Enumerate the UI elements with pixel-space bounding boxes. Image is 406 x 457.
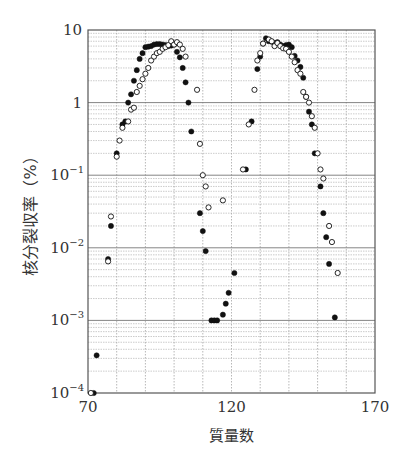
y-tick-label: 10 (63, 21, 82, 39)
filled-data-point (180, 65, 185, 70)
filled-data-point (94, 353, 99, 358)
open-data-point (260, 41, 265, 46)
y-tick-label: 1 (72, 94, 82, 112)
open-data-point (120, 125, 125, 130)
open-data-point (292, 60, 297, 65)
filled-data-point (186, 100, 191, 105)
y-axis-label: 核分裂収率（%） (21, 148, 40, 275)
filled-data-point (232, 270, 237, 275)
filled-data-point (126, 100, 131, 105)
filled-data-point (326, 261, 331, 266)
filled-data-point (197, 211, 202, 216)
open-data-point (200, 173, 205, 178)
open-data-point (126, 119, 131, 124)
open-data-point (117, 138, 122, 143)
open-data-point (252, 87, 257, 92)
fission-yield-chart: 10110−110−210−310−4 70120170 質量数 核分裂収率（%… (0, 0, 406, 457)
open-data-point (329, 239, 334, 244)
open-data-point (203, 184, 208, 189)
filled-data-point (255, 66, 260, 71)
open-data-point (304, 94, 309, 99)
open-data-point (206, 205, 211, 210)
filled-data-point (128, 92, 133, 97)
open-data-point (312, 125, 317, 130)
filled-data-point (215, 318, 220, 323)
open-data-point (220, 198, 225, 203)
grid-lines (88, 30, 375, 393)
filled-data-point (174, 49, 179, 54)
open-data-point (146, 65, 151, 70)
filled-data-point (324, 235, 329, 240)
y-tick-label: 10−2 (50, 237, 84, 257)
open-data-point (255, 58, 260, 63)
open-data-point (134, 89, 139, 94)
open-data-point (88, 390, 93, 395)
filled-data-point (223, 301, 228, 306)
filled-data-point (131, 78, 136, 83)
x-tick-label: 170 (361, 398, 390, 416)
filled-data-point (140, 51, 145, 56)
filled-data-point (321, 211, 326, 216)
x-tick-labels: 70120170 (78, 398, 389, 416)
filled-data-point (220, 312, 225, 317)
open-data-point (306, 100, 311, 105)
filled-data-point (177, 55, 182, 60)
x-tick-label: 70 (78, 398, 97, 416)
filled-data-point (134, 68, 139, 73)
open-data-point (309, 114, 314, 119)
open-data-point (194, 87, 199, 92)
data-points (88, 36, 340, 396)
open-data-point (114, 154, 119, 159)
open-data-point (108, 214, 113, 219)
open-data-point (315, 151, 320, 156)
open-data-point (183, 54, 188, 59)
open-data-point (131, 105, 136, 110)
y-tick-label: 10−1 (50, 164, 84, 184)
open-data-point (335, 270, 340, 275)
filled-data-point (183, 80, 188, 85)
filled-data-point (200, 228, 205, 233)
y-tick-label: 10−3 (50, 309, 84, 329)
filled-data-point (137, 56, 142, 61)
open-data-point (301, 89, 306, 94)
open-data-point (246, 122, 251, 127)
open-data-point (321, 176, 326, 181)
filled-data-point (318, 184, 323, 189)
open-data-point (298, 71, 303, 76)
open-data-point (143, 71, 148, 76)
open-data-point (326, 223, 331, 228)
x-axis-label: 質量数 (209, 427, 254, 445)
open-data-point (140, 77, 145, 82)
filled-data-point (332, 315, 337, 320)
open-data-point (105, 259, 110, 264)
open-data-point (258, 51, 263, 56)
open-data-point (180, 46, 185, 51)
filled-data-point (189, 129, 194, 134)
filled-data-point (203, 249, 208, 254)
y-tick-labels: 10110−110−210−310−4 (50, 21, 84, 402)
open-data-point (318, 167, 323, 172)
filled-data-point (108, 223, 113, 228)
filled-data-point (226, 290, 231, 295)
open-data-point (286, 49, 291, 54)
open-data-point (137, 83, 142, 88)
open-data-point (289, 54, 294, 59)
open-data-point (269, 39, 274, 44)
open-data-point (197, 141, 202, 146)
x-tick-label: 120 (217, 398, 246, 416)
open-data-point (240, 167, 245, 172)
